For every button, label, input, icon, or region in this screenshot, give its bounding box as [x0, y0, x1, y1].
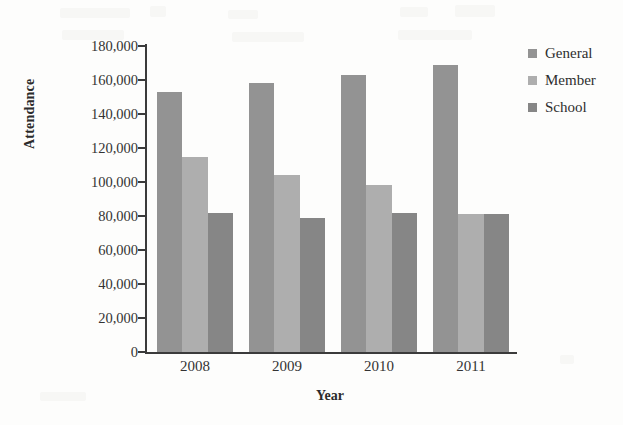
- bar-slot: [366, 46, 391, 352]
- bar-school-2008[interactable]: [208, 213, 233, 352]
- scan-artifact: [455, 5, 495, 17]
- legend: GeneralMemberSchool: [528, 40, 623, 121]
- plot-area: [145, 46, 513, 352]
- bar-general-2010[interactable]: [341, 75, 366, 352]
- scan-artifact: [560, 355, 574, 364]
- y-axis-tick-labels: 020,00040,00060,00080,000100,000120,0001…: [50, 0, 138, 425]
- y-tick-label: 0: [52, 344, 138, 361]
- bar-school-2009[interactable]: [300, 218, 325, 352]
- legend-swatch-icon: [528, 76, 537, 85]
- x-tick-label-2008: 2008: [150, 358, 240, 375]
- y-tick-mark: [138, 147, 145, 149]
- y-tick-mark: [138, 249, 145, 251]
- bar-general-2011[interactable]: [433, 65, 458, 352]
- legend-item-school[interactable]: School: [528, 94, 623, 121]
- bar-member-2011[interactable]: [458, 214, 483, 352]
- y-tick-label: 180,000: [52, 38, 138, 55]
- x-axis-line: [145, 352, 517, 354]
- scan-artifact: [232, 32, 304, 42]
- y-tick-mark: [138, 181, 145, 183]
- legend-item-general[interactable]: General: [528, 40, 623, 67]
- legend-swatch-icon: [528, 103, 537, 112]
- y-tick-label: 140,000: [52, 106, 138, 123]
- x-tick-label-2010: 2010: [334, 358, 424, 375]
- y-tick-label: 160,000: [52, 72, 138, 89]
- y-tick-label: 20,000: [52, 310, 138, 327]
- bar-slot: [341, 46, 366, 352]
- y-tick-label: 120,000: [52, 140, 138, 157]
- y-axis-title: Attendance: [22, 0, 38, 149]
- bar-slot: [392, 46, 417, 352]
- y-tick-mark: [138, 79, 145, 81]
- y-tick-mark: [138, 317, 145, 319]
- bar-slot: [249, 46, 274, 352]
- scan-artifact: [228, 10, 258, 19]
- bar-member-2010[interactable]: [366, 185, 391, 352]
- bar-slot: [300, 46, 325, 352]
- bar-school-2011[interactable]: [484, 214, 509, 352]
- bar-general-2009[interactable]: [249, 83, 274, 352]
- bar-member-2009[interactable]: [274, 175, 299, 352]
- scan-artifact: [398, 30, 472, 40]
- y-tick-label: 80,000: [52, 208, 138, 225]
- bar-slot: [208, 46, 233, 352]
- legend-label: School: [545, 99, 587, 116]
- y-tick-label: 100,000: [52, 174, 138, 191]
- bar-slot: [484, 46, 509, 352]
- y-tick-mark: [138, 45, 145, 47]
- bar-school-2010[interactable]: [392, 213, 417, 352]
- bar-slot: [458, 46, 483, 352]
- legend-label: General: [545, 45, 592, 62]
- bar-slot: [274, 46, 299, 352]
- scan-artifact: [400, 7, 428, 17]
- legend-swatch-icon: [528, 49, 537, 58]
- bar-slot: [433, 46, 458, 352]
- y-tick-mark: [138, 283, 145, 285]
- x-tick-label-2009: 2009: [242, 358, 332, 375]
- y-tick-label: 40,000: [52, 276, 138, 293]
- y-tick-mark: [138, 113, 145, 115]
- bar-member-2008[interactable]: [182, 157, 207, 353]
- y-tick-label: 60,000: [52, 242, 138, 259]
- bar-slot: [182, 46, 207, 352]
- legend-label: Member: [545, 72, 596, 89]
- y-tick-mark: [138, 351, 145, 353]
- scan-artifact: [150, 6, 166, 17]
- bar-chart-figure: Attendance 020,00040,00060,00080,000100,…: [0, 0, 623, 425]
- x-tick-label-2011: 2011: [426, 358, 516, 375]
- legend-item-member[interactable]: Member: [528, 67, 623, 94]
- bar-slot: [157, 46, 182, 352]
- x-axis-title: Year: [145, 388, 515, 404]
- y-tick-mark: [138, 215, 145, 217]
- bar-general-2008[interactable]: [157, 92, 182, 352]
